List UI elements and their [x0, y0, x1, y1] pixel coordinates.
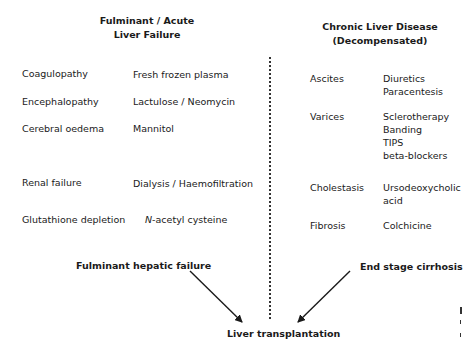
right-arrow-icon [298, 271, 350, 322]
cropped-edge-mark [460, 320, 461, 324]
left-arrow-icon [190, 271, 242, 322]
arrows [0, 0, 463, 348]
cropped-edge-mark [460, 307, 462, 314]
outcome-liver-transplantation: Liver transplantation [227, 327, 340, 340]
cropped-edge-mark [460, 333, 461, 337]
